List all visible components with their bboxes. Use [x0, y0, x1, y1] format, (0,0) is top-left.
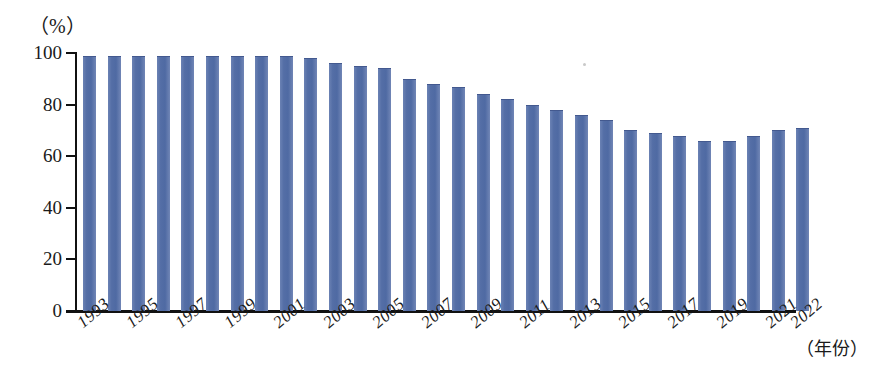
y-tick-label: 0	[22, 301, 62, 320]
y-tick-label-wrap: 0	[18, 301, 62, 320]
bar-2015	[624, 130, 637, 311]
y-tick-mark	[66, 52, 76, 54]
bar-2007	[427, 84, 440, 311]
y-tick-label-wrap: 20	[18, 249, 62, 268]
plot-area	[76, 53, 870, 311]
y-tick-label-wrap: 60	[18, 146, 62, 165]
bar-2013	[575, 115, 588, 311]
bar-2021	[772, 130, 785, 311]
y-tick-mark	[66, 155, 76, 157]
bar-chart-figure: （%） 020406080100 19931995199719992001200…	[0, 0, 888, 386]
bar-2004	[354, 66, 367, 311]
bar-2019	[723, 141, 736, 311]
y-tick-mark	[66, 104, 76, 106]
paper-speckle	[583, 63, 586, 66]
bar-2012	[550, 110, 563, 311]
y-axis-unit-label: （%）	[29, 16, 86, 36]
y-tick-label-wrap: 80	[18, 95, 62, 114]
bar-1998	[206, 56, 219, 311]
bar-2020	[747, 136, 760, 311]
y-tick-label: 60	[22, 146, 62, 165]
x-axis-title: （年份）	[796, 340, 868, 358]
bar-1993	[83, 56, 96, 311]
bar-2002	[304, 58, 317, 311]
bar-2005	[378, 68, 391, 311]
bar-2006	[403, 79, 416, 311]
y-tick-mark	[66, 207, 76, 209]
bar-1999	[231, 56, 244, 311]
bar-2003	[329, 63, 342, 311]
bar-2018	[698, 141, 711, 311]
bar-2016	[649, 133, 662, 311]
bar-2017	[673, 136, 686, 311]
bar-2022	[796, 128, 809, 311]
bar-2001	[280, 56, 293, 311]
y-tick-label: 80	[22, 95, 62, 114]
y-tick-label-wrap: 100	[18, 43, 62, 62]
bar-1994	[108, 56, 121, 311]
bar-2008	[452, 87, 465, 311]
bar-1995	[132, 56, 145, 311]
y-tick-label-wrap: 40	[18, 198, 62, 217]
bar-2010	[501, 99, 514, 311]
y-tick-mark	[66, 310, 76, 312]
bar-2000	[255, 56, 268, 311]
bar-2009	[477, 94, 490, 311]
y-tick-label: 100	[22, 43, 62, 62]
bar-2011	[526, 105, 539, 311]
bar-1996	[157, 56, 170, 311]
y-tick-mark	[66, 258, 76, 260]
y-tick-label: 20	[22, 249, 62, 268]
bar-1997	[181, 56, 194, 311]
y-tick-label: 40	[22, 198, 62, 217]
bar-2014	[600, 120, 613, 311]
